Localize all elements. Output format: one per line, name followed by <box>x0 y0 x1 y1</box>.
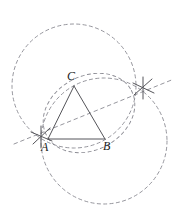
triangle-side-ac <box>48 86 74 139</box>
vertex-label-a: A <box>41 141 48 153</box>
geometry-canvas <box>0 0 177 222</box>
construction-line-through-crosses <box>14 79 174 144</box>
geometry-figure: A B C <box>0 0 177 222</box>
vertex-label-c: C <box>67 70 75 82</box>
vertex-label-b: B <box>103 140 110 152</box>
triangle-side-bc <box>74 86 105 139</box>
